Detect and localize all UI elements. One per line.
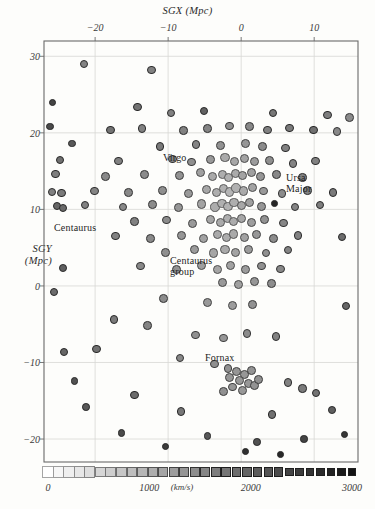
y-tick-label: 10 — [14, 204, 40, 215]
colorbar-swatch — [285, 468, 294, 477]
cluster-label-line2: Major — [286, 183, 311, 194]
data-point — [243, 329, 252, 338]
data-point — [234, 280, 243, 289]
data-point — [263, 126, 272, 135]
colorbar-swatch — [137, 467, 148, 478]
data-point — [256, 172, 265, 181]
data-point — [133, 103, 141, 111]
data-point — [71, 377, 79, 385]
scatter-plot-figure: SGX (Mpc) SGY (Mpc) −20−100103020100−10−… — [0, 0, 375, 509]
colorbar-swatch — [327, 468, 336, 477]
data-point — [106, 126, 114, 134]
data-point — [229, 229, 238, 238]
colorbar-swatch — [169, 467, 179, 477]
data-point — [213, 265, 222, 274]
data-point — [130, 391, 138, 399]
x-tick-label: 0 — [239, 22, 244, 33]
data-point — [130, 217, 139, 226]
data-point — [247, 366, 256, 375]
data-point — [247, 218, 256, 227]
x-tick-label: −10 — [160, 22, 177, 33]
data-point — [68, 140, 76, 148]
data-point — [143, 321, 152, 330]
colorbar-swatch — [127, 467, 138, 478]
data-point — [59, 204, 67, 212]
colorbar-swatch — [190, 467, 200, 477]
cluster-label-centaurus-group: Centaurusgroup — [170, 255, 212, 277]
data-point — [220, 153, 229, 162]
cluster-label-text: Centaurus — [54, 222, 96, 233]
data-point — [187, 158, 196, 167]
colorbar-swatch — [105, 467, 116, 478]
data-point — [158, 186, 167, 195]
data-point — [206, 155, 215, 164]
colorbar-swatch — [221, 467, 231, 477]
colorbar-swatch — [348, 468, 356, 476]
data-point — [184, 189, 193, 198]
colorbar-tick-label: 3000 — [342, 482, 362, 493]
data-point — [252, 230, 261, 239]
data-point — [156, 142, 164, 150]
data-point — [238, 386, 247, 395]
data-point — [136, 262, 145, 271]
cluster-label-line1: Ursa — [286, 172, 306, 183]
data-point — [147, 66, 156, 75]
data-point — [192, 140, 201, 149]
data-point — [138, 124, 147, 133]
data-point — [338, 233, 346, 241]
data-point — [162, 443, 169, 450]
cluster-label-line1: Centaurus — [170, 255, 212, 266]
cluster-label-ursa-major: UrsaMajor — [286, 172, 311, 194]
colorbar-swatch — [95, 467, 106, 478]
x-tick-label: −20 — [87, 22, 104, 33]
data-point — [124, 188, 133, 197]
data-point — [323, 111, 331, 119]
data-point — [240, 233, 249, 242]
data-point — [199, 234, 208, 243]
data-point — [248, 300, 257, 309]
data-point — [81, 201, 90, 210]
data-point — [110, 315, 118, 323]
cluster-label-text: Virgo — [163, 152, 187, 163]
data-point — [230, 157, 239, 166]
colorbar-swatch — [116, 467, 127, 478]
data-point — [114, 157, 123, 166]
data-point — [272, 170, 281, 179]
data-point — [200, 107, 208, 115]
cluster-label-line2: group — [170, 266, 194, 277]
cluster-label-virgo: Virgo — [163, 152, 187, 163]
data-point — [250, 277, 259, 286]
data-point — [272, 332, 281, 341]
colorbar-swatch — [200, 467, 210, 477]
data-point — [268, 410, 276, 418]
data-point — [220, 245, 229, 254]
data-point — [245, 122, 254, 131]
data-point — [197, 199, 206, 208]
data-point — [204, 432, 212, 440]
data-point — [59, 264, 67, 272]
data-point — [294, 231, 303, 240]
data-point — [101, 172, 110, 181]
colorbar-swatch — [337, 468, 345, 476]
data-point — [260, 215, 269, 224]
data-point — [300, 435, 307, 442]
colorbar-swatch — [242, 467, 251, 476]
data-point — [345, 113, 354, 122]
cluster-label-fornax: Fornax — [205, 352, 235, 363]
data-point — [177, 231, 186, 240]
colorbar-swatch — [84, 466, 95, 477]
colorbar-tick-label: 0 — [46, 482, 51, 493]
data-point — [196, 168, 205, 177]
data-point — [82, 403, 90, 411]
data-point — [309, 126, 317, 134]
colorbar-swatch — [211, 467, 221, 477]
data-point — [219, 387, 228, 396]
x-tick-label: 10 — [309, 22, 319, 33]
colorbar-swatch — [316, 468, 325, 477]
data-point — [228, 383, 237, 392]
data-point — [271, 200, 278, 207]
data-point — [328, 406, 336, 414]
data-point — [284, 378, 293, 387]
colorbar-units-label: (km/s) — [171, 482, 194, 492]
data-point — [218, 278, 227, 287]
